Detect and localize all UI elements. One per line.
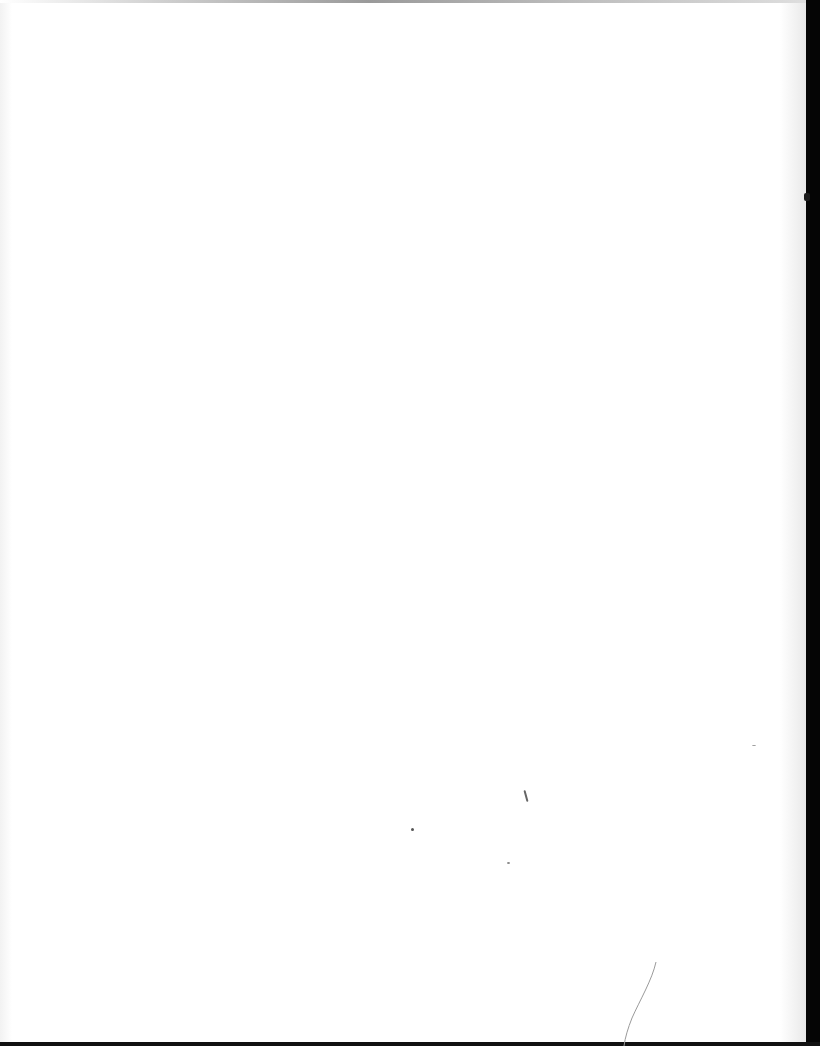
- speck: [752, 745, 756, 746]
- blank-page: [0, 0, 808, 1042]
- page-bottom-edge: [0, 1042, 820, 1046]
- speck: [411, 828, 414, 831]
- page-top-edge: [0, 0, 820, 3]
- paper-crease: [620, 960, 660, 1046]
- page-right-edge: [806, 0, 820, 1046]
- speck: [507, 862, 510, 864]
- edge-notch: [804, 193, 810, 201]
